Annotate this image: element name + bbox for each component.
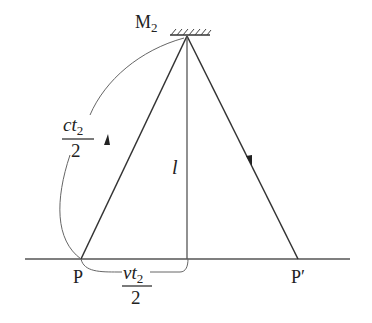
- ray-down: [187, 36, 298, 259]
- svg-text:vt2: vt2: [123, 262, 143, 286]
- base-brace-right: [150, 259, 188, 272]
- ray-up: [81, 36, 187, 259]
- hypotenuse-label: ct2 2: [62, 114, 94, 161]
- mirror-label: M2: [135, 12, 158, 35]
- svg-text:2: 2: [71, 140, 81, 161]
- hyp-brace-lower: [60, 155, 81, 259]
- point-p-label: P: [73, 267, 83, 287]
- base-label: vt2 2: [122, 262, 152, 308]
- arrow-down-icon: [246, 155, 252, 166]
- height-label: l: [172, 156, 178, 178]
- base-brace: [81, 259, 122, 272]
- hyp-brace: [90, 38, 184, 115]
- arrow-up-icon: [104, 134, 110, 145]
- point-p-prime-label: P′: [291, 267, 305, 287]
- svg-text:ct2: ct2: [63, 114, 83, 138]
- light-path-diagram: M2 ct2 2 l P vt2 2 P′: [0, 0, 372, 323]
- mirror-m2-icon: [170, 29, 211, 35]
- svg-text:2: 2: [131, 287, 141, 308]
